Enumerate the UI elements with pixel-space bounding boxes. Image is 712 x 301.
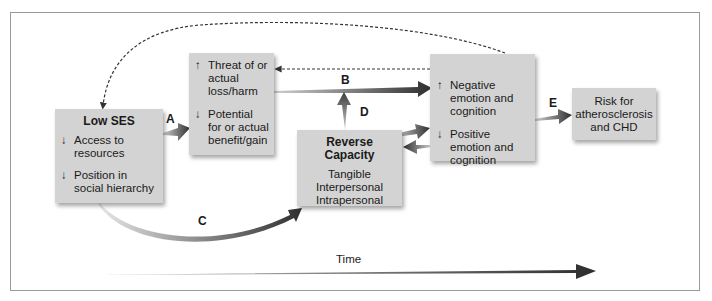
path-label-d: D <box>360 105 369 119</box>
down-arrow-icon: ↓ <box>61 169 67 182</box>
path-label-c: C <box>198 214 207 228</box>
emotion-box: ↑ Negative emotion and cognition ↓ Posit… <box>430 54 535 161</box>
emotion-item-negative: ↑ Negative emotion and cognition <box>437 79 531 118</box>
low-ses-item-position: ↓ Position in social hierarchy <box>61 169 157 195</box>
threat-item-loss: ↑ Threat of or actual loss/harm <box>195 59 269 98</box>
down-arrow-icon: ↓ <box>195 108 201 121</box>
path-label-b: B <box>341 73 350 87</box>
time-arrow <box>95 264 596 279</box>
threat-item-benefit: ↓ Potential for or actual benefit/gain <box>195 108 269 147</box>
up-arrow-icon: ↑ <box>437 79 443 92</box>
threat-box: ↑ Threat of or actual loss/harm ↓ Potent… <box>189 53 274 155</box>
down-arrow-icon: ↓ <box>61 134 67 147</box>
risk-box: Risk for atherosclerosis and CHD <box>572 88 656 140</box>
reserve-line-tangible: Tangible <box>300 168 399 181</box>
arrow-d <box>337 92 351 130</box>
emotion-item-positive: ↓ Positive emotion and cognition <box>437 128 531 167</box>
low-ses-box: Low SES ↓ Access to resources ↓ Position… <box>55 109 163 203</box>
arrow-e <box>535 109 572 124</box>
path-label-e: E <box>549 96 557 110</box>
up-arrow-icon: ↑ <box>195 59 201 72</box>
path-label-a: A <box>166 112 175 126</box>
reserve-capacity-box: Reverse Capacity Tangible Interpersonal … <box>297 130 402 206</box>
arrow-b <box>273 81 432 97</box>
down-arrow-icon: ↓ <box>437 128 443 141</box>
reserve-capacity-title: Reverse Capacity <box>300 136 399 162</box>
arrow-positive-to-reserve <box>403 140 432 154</box>
reserve-line-intrapersonal: Intrapersonal <box>300 194 399 207</box>
reserve-line-interpersonal: Interpersonal <box>300 181 399 194</box>
low-ses-title: Low SES <box>61 115 157 128</box>
low-ses-item-access: ↓ Access to resources <box>61 134 157 160</box>
risk-text: Risk for atherosclerosis and CHD <box>575 95 653 134</box>
time-label: Time <box>336 253 361 265</box>
